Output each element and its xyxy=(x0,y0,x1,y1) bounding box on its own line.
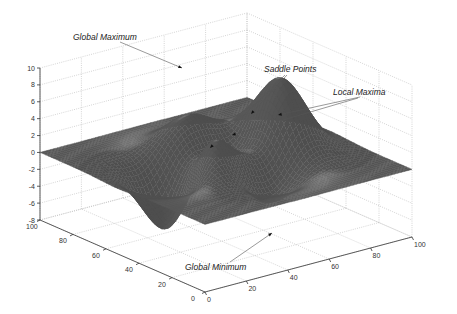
z-tick-label: 8 xyxy=(31,81,35,88)
x-tick-label: 20 xyxy=(248,285,256,292)
z-tick-label: -6 xyxy=(29,200,35,207)
x-tick-label: 60 xyxy=(331,263,339,270)
label-global-minimum: Global Minimum xyxy=(185,262,246,272)
label-global-maximum: Global Maximum xyxy=(73,32,137,42)
z-tick-label: 0 xyxy=(31,149,35,156)
z-tick-label: -8 xyxy=(29,217,35,224)
y-tick-label: 100 xyxy=(26,223,38,230)
y-tick-label: 80 xyxy=(59,237,67,244)
arrow-global-minimum xyxy=(230,233,272,262)
surface-plot: Global Maximum Saddle Points Local Maxim… xyxy=(0,0,457,314)
z-tick-label: 6 xyxy=(31,98,35,105)
x-tick-label: 40 xyxy=(290,274,298,281)
y-tick-label: 0 xyxy=(191,295,195,302)
z-tick-label: 10 xyxy=(27,65,35,72)
z-tick-label: -2 xyxy=(29,166,35,173)
surface-mesh xyxy=(40,78,412,230)
arrow-global-maximum xyxy=(120,42,182,68)
arrowhead-icon xyxy=(268,233,272,236)
label-saddle-points: Saddle Points xyxy=(264,64,317,74)
y-tick-label: 60 xyxy=(92,252,100,259)
x-tick-label: 100 xyxy=(414,241,426,248)
z-tick-label: 2 xyxy=(31,132,35,139)
x-tick-label: 0 xyxy=(207,296,211,303)
z-tick-label: 4 xyxy=(31,115,35,122)
z-tick-label: -4 xyxy=(29,183,35,190)
y-tick-label: 20 xyxy=(158,281,166,288)
y-tick-label: 40 xyxy=(125,266,133,273)
label-local-maxima: Local Maxima xyxy=(333,87,386,97)
x-tick-label: 80 xyxy=(373,252,381,259)
